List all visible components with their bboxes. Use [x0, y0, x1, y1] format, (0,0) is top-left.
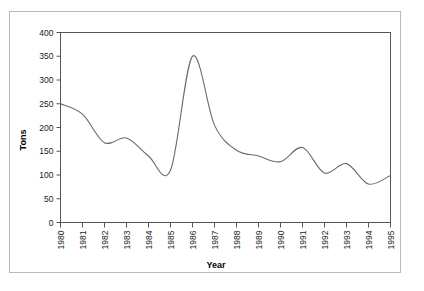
y-tick-label: 200	[39, 123, 53, 133]
line-chart: 050100150200250300350400 198019811982198…	[0, 0, 424, 291]
x-tick-label: 1984	[144, 230, 154, 249]
chart-figure: 050100150200250300350400 198019811982198…	[0, 0, 424, 291]
x-tick-label: 1990	[276, 230, 286, 249]
x-tick-label: 1991	[298, 230, 308, 249]
x-axis-title: Year	[206, 260, 226, 270]
y-tick-label: 50	[44, 194, 54, 204]
y-tick-label: 300	[39, 75, 53, 85]
x-tick-label: 1982	[100, 230, 110, 249]
x-tick-label: 1988	[232, 230, 242, 249]
y-tick-label: 100	[39, 170, 53, 180]
x-tick-label: 1985	[166, 230, 176, 249]
x-tick-label: 1986	[188, 230, 198, 249]
y-tick-label: 250	[39, 99, 53, 109]
x-tick-label: 1992	[320, 230, 330, 249]
x-tick-label: 1989	[254, 230, 264, 249]
x-tick-label: 1983	[122, 230, 132, 249]
x-axis-ticks	[61, 223, 391, 228]
x-tick-label: 1980	[56, 230, 66, 249]
x-tick-label: 1994	[364, 230, 374, 249]
data-series-line	[61, 56, 391, 185]
y-axis-tick-labels: 050100150200250300350400	[39, 28, 53, 228]
plot-area-border	[61, 33, 391, 223]
y-tick-label: 150	[39, 146, 53, 156]
x-tick-label: 1995	[386, 230, 396, 249]
y-axis-title: Tons	[18, 130, 28, 151]
x-axis-tick-labels: 1980198119821983198419851986198719881989…	[56, 230, 396, 249]
y-tick-label: 350	[39, 51, 53, 61]
y-axis-ticks	[57, 33, 61, 223]
x-tick-label: 1993	[342, 230, 352, 249]
x-tick-label: 1981	[78, 230, 88, 249]
x-tick-label: 1987	[210, 230, 220, 249]
y-tick-label: 0	[49, 218, 54, 228]
y-tick-label: 400	[39, 28, 53, 38]
